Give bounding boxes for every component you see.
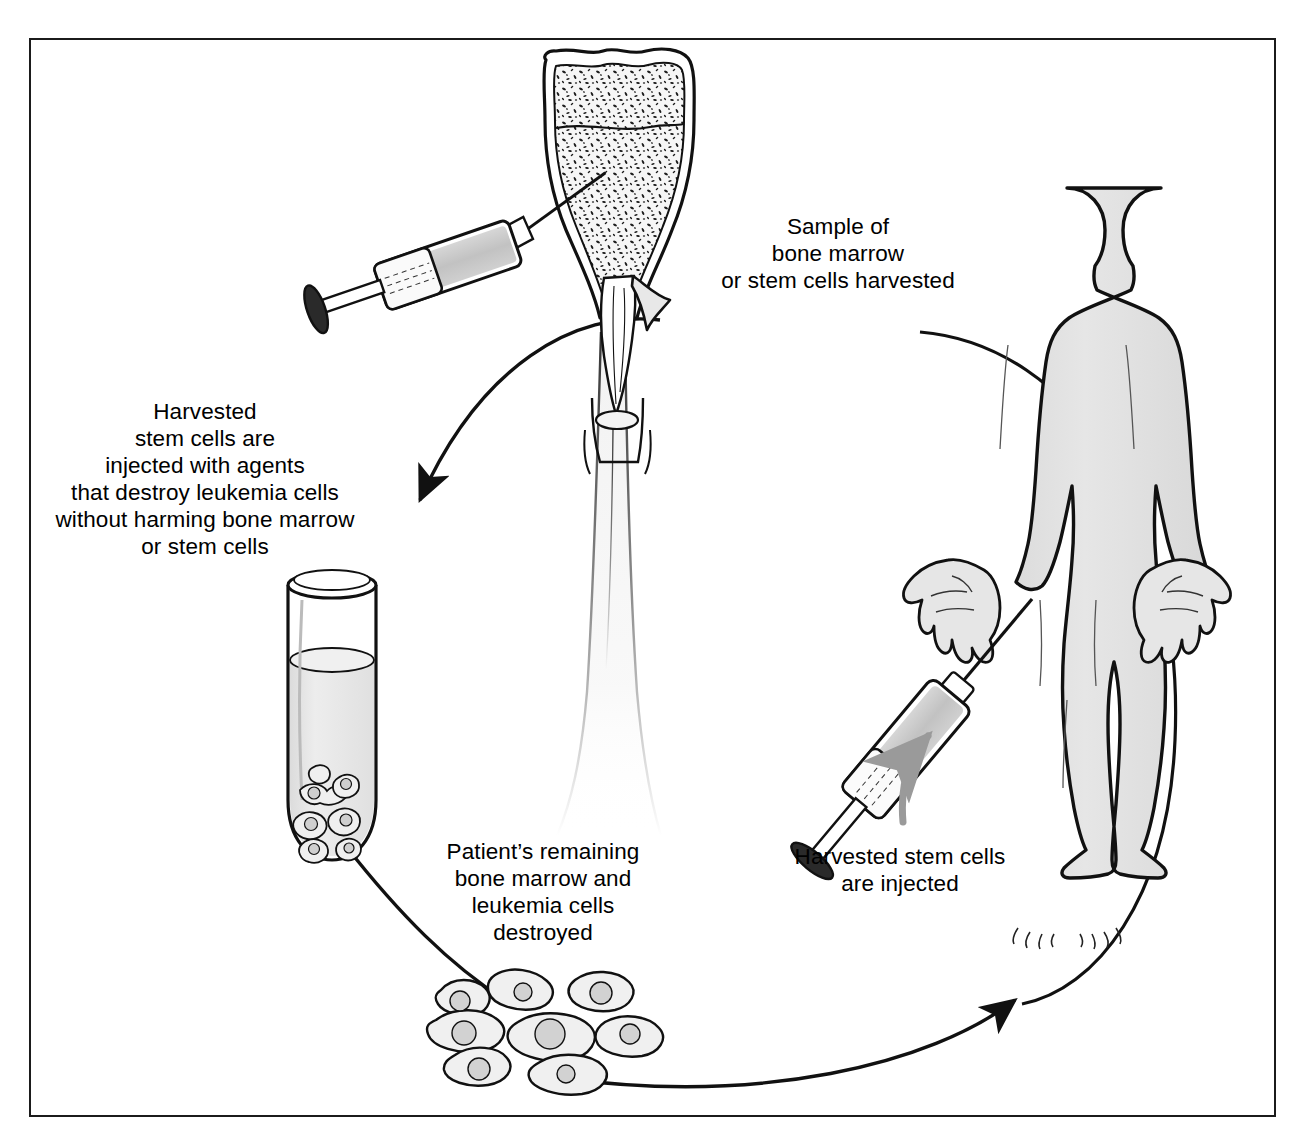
label-marrow-destroyed: Patient’s remaining bone marrow and leuk…: [413, 838, 673, 946]
patient-body-illustration: [903, 188, 1230, 949]
label-cells-treated: Harvested stem cells are injected with a…: [30, 398, 380, 560]
femur-bone-illustration: [544, 49, 694, 836]
diagram-canvas: Sample of bone marrow or stem cells harv…: [0, 0, 1301, 1143]
label-sample-harvested: Sample of bone marrow or stem cells harv…: [688, 213, 988, 294]
label-cells-injected: Harvested stem cells are injected: [770, 843, 1030, 897]
test-tube-illustration: [288, 570, 376, 863]
destroyed-cells-illustration: [427, 970, 663, 1095]
illustration-layer: [0, 0, 1301, 1143]
